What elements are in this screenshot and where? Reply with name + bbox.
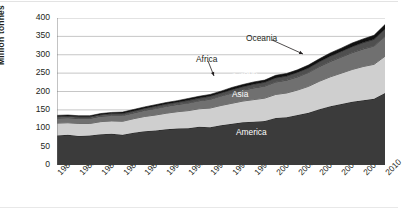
plot-area <box>57 18 385 165</box>
x-tick-2010: 2010 <box>383 157 403 177</box>
stacked-area-series <box>57 18 385 165</box>
series-label-america: America <box>236 127 267 137</box>
y-axis-title: Million tonnes <box>0 0 6 83</box>
y-tick-0: 0 <box>16 160 50 169</box>
y-tick-50: 50 <box>16 142 50 151</box>
y-tick-250: 250 <box>16 68 50 77</box>
series-label-asia: Asia <box>232 89 248 99</box>
y-tick-150: 150 <box>16 105 50 114</box>
figure-bottom-rule <box>0 207 398 208</box>
series-label-africa: Africa <box>196 54 217 64</box>
y-tick-100: 100 <box>16 123 50 132</box>
series-label-oceania: Oceania <box>246 33 277 43</box>
figure-top-rule <box>0 1 398 2</box>
y-tick-350: 350 <box>16 31 50 40</box>
y-tick-400: 400 <box>16 13 50 22</box>
y-tick-300: 300 <box>16 50 50 59</box>
y-tick-200: 200 <box>16 87 50 96</box>
